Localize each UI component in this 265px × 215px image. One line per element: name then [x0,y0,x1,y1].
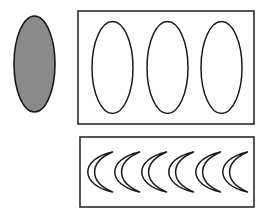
diagram-canvas [0,0,265,215]
outline-ellipse [92,22,133,114]
shape-diagram [0,0,265,215]
outline-ellipse-group [92,22,242,114]
outline-ellipse [201,22,242,114]
outline-ellipse [147,22,188,114]
shaded-ellipse [14,16,55,112]
